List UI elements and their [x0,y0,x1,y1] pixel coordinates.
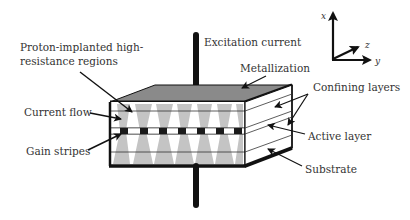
laser-diagram: Proton-implanted high- resistance region… [0,0,410,220]
label-excitation: Excitation current [204,36,302,48]
label-gain-stripes: Gain stripes [26,145,90,157]
active-layer-band [110,128,245,134]
z-axis-label: z [364,40,370,50]
label-substrate: Substrate [305,163,357,175]
y-axis-label: y [374,56,381,66]
label-active-layer: Active layer [307,130,372,142]
label-current-flow: Current flow [24,106,92,118]
z-axis-arrow [333,47,358,59]
label-metallization: Metallization [240,62,310,74]
axis-triad: x y z [321,11,381,66]
label-confining: Confining layers [313,81,400,93]
x-axis-label: x [321,11,326,21]
label-proton-line2: resistance regions [20,55,118,67]
label-proton-line1: Proton-implanted high- [20,41,144,53]
